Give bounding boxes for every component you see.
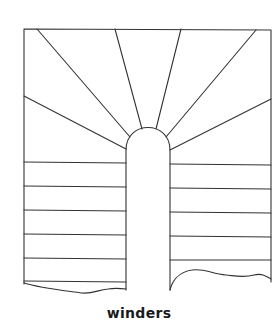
winder-ray (24, 96, 126, 149)
winder-ray (156, 29, 181, 129)
winder-ray (166, 30, 256, 137)
right-break-line (170, 270, 271, 290)
winder-stair-plan (0, 0, 278, 334)
winder-ray (170, 99, 271, 150)
newel-arch (126, 128, 170, 291)
left-break-line (24, 283, 126, 293)
right-flight-treads (170, 164, 271, 260)
diagram-caption: winders (0, 305, 278, 321)
left-flight-treads (24, 162, 126, 282)
outer-wall (24, 29, 271, 284)
winder-ray (115, 29, 142, 129)
winder-ray (37, 29, 130, 137)
